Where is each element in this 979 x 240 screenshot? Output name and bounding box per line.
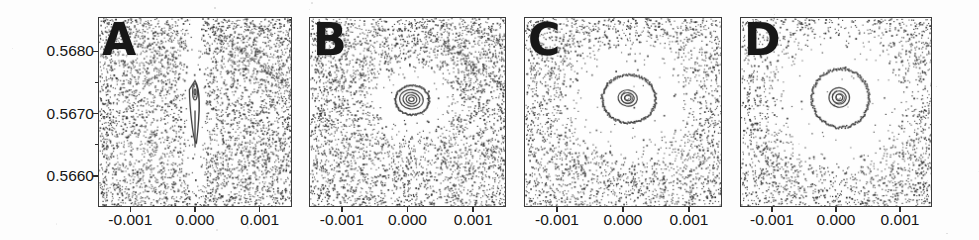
- panel-letter-a: A: [102, 18, 135, 62]
- phase-space-figure: 0.56800.56700.5660 ABCD -0.0010.0000.001…: [0, 0, 979, 240]
- panel-b: B: [309, 17, 506, 207]
- panel-letter-c: C: [528, 18, 559, 62]
- y-tick-label: 0.5670: [47, 105, 94, 123]
- x-tick-label: 0.001: [454, 211, 493, 229]
- panel-d: D: [740, 17, 932, 207]
- paper-speck: [335, 145, 336, 146]
- paper-speck: [978, 171, 979, 172]
- paper-speck: [214, 7, 216, 9]
- paper-speck: [946, 233, 948, 235]
- paper-speck: [189, 19, 191, 21]
- panel-letter-d: D: [744, 18, 780, 62]
- y-tick-label: 0.5680: [47, 42, 94, 60]
- x-tick-label: 0.000: [176, 211, 215, 229]
- paper-speck: [691, 140, 692, 141]
- paper-speck: [936, 86, 937, 87]
- paper-speck: [12, 48, 13, 49]
- panel-letter-b: B: [313, 18, 346, 62]
- paper-speck: [197, 219, 198, 220]
- x-tick-label: 0.000: [388, 211, 427, 229]
- paper-speck: [56, 223, 57, 224]
- panel-a: A: [98, 17, 292, 207]
- x-tick-label: -0.001: [320, 211, 364, 229]
- x-tick-label: -0.001: [535, 211, 579, 229]
- x-tick-label: 0.001: [881, 211, 920, 229]
- x-tick-label: 0.000: [817, 211, 856, 229]
- paper-speck: [219, 206, 220, 207]
- x-tick-label: 0.000: [604, 211, 643, 229]
- paper-speck: [259, 163, 260, 164]
- paper-speck: [469, 82, 471, 84]
- panel-c: C: [524, 17, 722, 207]
- paper-speck: [247, 225, 248, 226]
- paper-speck: [247, 227, 249, 229]
- x-tick-label: 0.001: [670, 211, 709, 229]
- paper-speck: [219, 209, 220, 210]
- paper-speck: [354, 177, 356, 179]
- y-tick-label: 0.5660: [47, 167, 94, 185]
- paper-speck: [216, 229, 218, 231]
- x-tick-label: -0.001: [108, 211, 152, 229]
- x-tick-label: -0.001: [750, 211, 794, 229]
- paper-speck: [309, 9, 310, 10]
- paper-speck: [311, 2, 313, 4]
- paper-speck: [290, 194, 292, 196]
- paper-speck: [774, 14, 775, 15]
